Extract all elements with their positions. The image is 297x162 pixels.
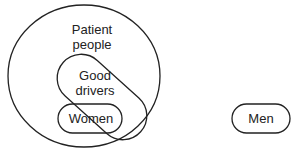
patient-label-line1: Patient <box>62 22 122 37</box>
men-label: Men <box>234 111 288 126</box>
patient-people-label: Patient people <box>62 22 122 52</box>
good-drivers-label-line2: drivers <box>70 83 120 98</box>
venn-diagram <box>0 0 297 162</box>
good-drivers-label-line1: Good <box>70 68 120 83</box>
good-drivers-label: Good drivers <box>70 68 120 98</box>
women-label: Women <box>62 111 120 126</box>
patient-label-line2: people <box>62 37 122 52</box>
